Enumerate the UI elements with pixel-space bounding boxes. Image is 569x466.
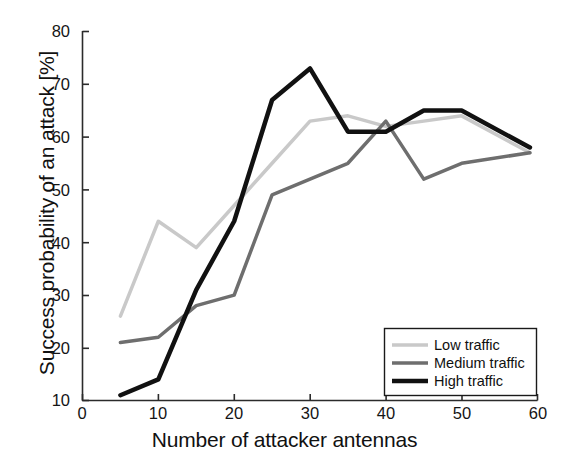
x-tick-label-10: 10 <box>136 404 180 423</box>
legend-label-medium-traffic: Medium traffic <box>434 355 525 371</box>
x-tick-label-40: 40 <box>364 404 408 423</box>
x-tick-label-60: 60 <box>516 404 560 423</box>
y-axis-title: Success probability of an attack [%] <box>35 51 59 375</box>
series-line-low-traffic <box>120 116 530 316</box>
legend-label-high-traffic: High traffic <box>434 373 503 389</box>
chart-figure: 80 70 60 50 40 30 20 10 0 10 20 30 40 50… <box>0 0 569 466</box>
plot-area <box>0 0 569 466</box>
y-axis-ticks <box>83 32 90 401</box>
legend-label-low-traffic: Low traffic <box>434 337 500 353</box>
x-axis-title: Number of attacker antennas <box>0 428 569 452</box>
x-tick-label-30: 30 <box>288 404 332 423</box>
x-tick-label-50: 50 <box>440 404 484 423</box>
x-tick-label-0: 0 <box>60 404 104 423</box>
y-axis-title-container: Success probability of an attack [%] <box>35 3 65 423</box>
x-tick-label-20: 20 <box>212 404 256 423</box>
series-line-medium-traffic <box>120 121 530 342</box>
